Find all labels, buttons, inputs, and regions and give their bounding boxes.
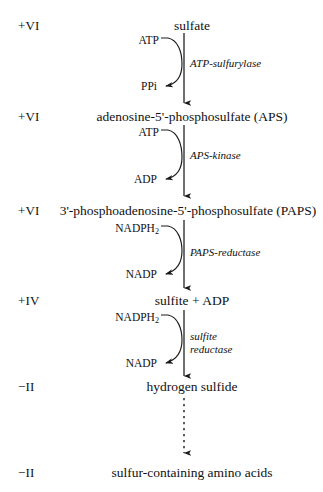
- enzyme-label-4: sulfite reductase: [190, 330, 232, 355]
- compound-paps: 3'-phosphoadenosine-5'-phosphosulfate (P…: [60, 204, 317, 218]
- oxidation-state-1: +VI: [18, 19, 40, 32]
- oxidation-state-5: −II: [18, 380, 35, 393]
- compound-sulfur-amino-acids: sulfur-containing amino acids: [112, 466, 273, 480]
- cofactor-substrate-3: NADPH2: [115, 223, 159, 235]
- cofactor-substrate-4-text: NADPH: [115, 311, 155, 323]
- step-arrow-1: [161, 33, 184, 103]
- cofactor-substrate-3-text: NADPH: [115, 222, 155, 234]
- cofactor-product-4: NADP: [126, 358, 157, 370]
- cofactor-product-2: ADP: [134, 174, 157, 186]
- cofactor-curve-1: [161, 38, 182, 86]
- cofactor-substrate-1: ATP: [139, 35, 159, 47]
- pathway-arrows-layer: [0, 0, 323, 492]
- cofactor-substrate-2: ATP: [139, 127, 159, 139]
- pathway-diagram: +VI +VI +VI +IV −II −II sulfate adenosin…: [0, 0, 323, 492]
- enzyme-label-1: ATP-sulfurylase: [190, 57, 261, 70]
- compound-sulfite-adp: sulfite + ADP: [155, 294, 229, 308]
- compound-sulfate: sulfate: [174, 19, 210, 33]
- cofactor-product-1: PPi: [141, 81, 157, 93]
- step-arrow-4: [161, 310, 184, 376]
- cofactor-product-3: NADP: [126, 269, 157, 281]
- oxidation-state-3: +VI: [18, 204, 40, 217]
- step-arrow-2: [161, 125, 184, 196]
- cofactor-curve-3: [161, 226, 182, 274]
- step-arrow-3: [161, 220, 184, 288]
- oxidation-state-4: +IV: [18, 294, 40, 307]
- cofactor-curve-2: [161, 130, 182, 179]
- enzyme-label-2: APS-kinase: [190, 149, 241, 162]
- compound-aps: adenosine-5'-phosphosulfate (APS): [96, 110, 287, 124]
- oxidation-state-2: +VI: [18, 110, 40, 123]
- oxidation-state-6: −II: [18, 466, 35, 479]
- cofactor-curve-4: [161, 315, 182, 363]
- cofactor-substrate-4-subscript: 2: [155, 316, 159, 325]
- cofactor-substrate-4: NADPH2: [115, 312, 159, 324]
- cofactor-substrate-3-subscript: 2: [155, 227, 159, 236]
- compound-hydrogen-sulfide: hydrogen sulfide: [146, 380, 237, 394]
- enzyme-label-3: PAPS-reductase: [190, 246, 260, 259]
